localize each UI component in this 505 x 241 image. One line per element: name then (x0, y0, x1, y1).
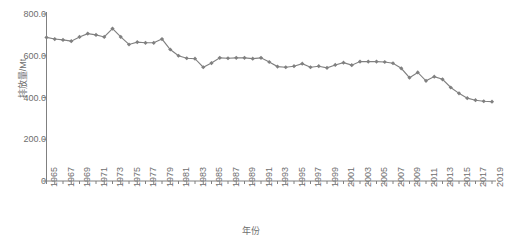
data-point-marker (152, 41, 156, 45)
data-point-marker (482, 99, 486, 103)
data-point-marker (292, 64, 296, 68)
data-point-marker (77, 35, 81, 39)
data-point-marker (490, 100, 494, 104)
data-point-marker (135, 40, 139, 44)
data-point-marker (267, 60, 271, 64)
data-point-marker (333, 63, 337, 67)
data-point-marker (473, 98, 477, 102)
data-point-marker (143, 41, 147, 45)
data-point-marker (300, 62, 304, 66)
data-point-marker (341, 61, 345, 65)
data-point-marker (185, 56, 189, 60)
data-point-marker (275, 65, 279, 69)
data-point-marker (432, 75, 436, 79)
data-point-marker (251, 57, 255, 61)
data-point-marker (94, 33, 98, 37)
data-point-marker (226, 56, 230, 60)
data-point-marker (242, 56, 246, 60)
data-point-marker (317, 64, 321, 68)
data-point-marker (325, 66, 329, 70)
data-point-marker (61, 38, 65, 42)
x-axis-label: 年份 (0, 224, 502, 237)
data-point-marker (366, 59, 370, 63)
y-axis-tick-marks (43, 14, 47, 181)
data-point-marker (350, 63, 354, 67)
data-point-marker (69, 39, 73, 43)
axis-lines (47, 12, 497, 181)
emissions-series-line (47, 29, 493, 102)
data-point-marker (86, 32, 90, 36)
data-point-marker (259, 56, 263, 60)
data-point-marker (44, 35, 48, 39)
data-point-marker (374, 59, 378, 63)
emissions-series-markers (44, 27, 494, 104)
data-point-marker (53, 37, 57, 41)
data-point-marker (234, 56, 238, 60)
data-point-marker (308, 65, 312, 69)
data-point-marker (383, 60, 387, 64)
data-point-marker (358, 59, 362, 63)
data-point-marker (284, 65, 288, 69)
